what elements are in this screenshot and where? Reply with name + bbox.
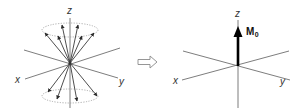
arrow-up-icon <box>234 26 243 37</box>
m0-label: M0 <box>246 26 259 38</box>
hollow-right-arrow-icon <box>138 56 157 68</box>
left-panel-spins: z x y <box>14 5 125 108</box>
z-label-right: z <box>234 8 240 19</box>
x-label-right: x <box>172 75 179 86</box>
y-label-right: y <box>279 76 286 87</box>
right-panel-net-magnetization: z x y M0 <box>172 8 290 108</box>
x-label-left: x <box>14 74 21 85</box>
origin-dot-left <box>68 61 71 64</box>
upper-spin-vectors <box>45 25 94 63</box>
y-label-left: y <box>118 76 125 87</box>
z-label-left: z <box>66 5 72 16</box>
magnetization-diagram: z x y z x y M0 <box>0 0 301 112</box>
